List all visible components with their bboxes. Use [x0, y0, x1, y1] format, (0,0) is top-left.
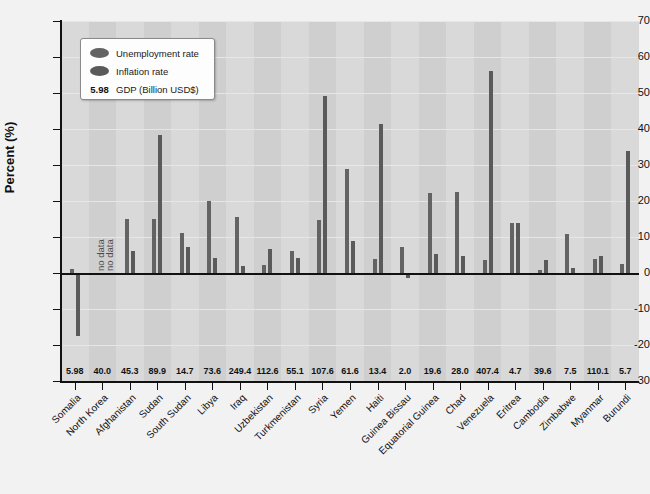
y-tick-mark [53, 201, 61, 202]
y-axis-label: Percent (%) [2, 122, 17, 194]
gdp-value: 14.7 [176, 366, 194, 376]
legend-item-unemployment: Unemployment rate [90, 45, 199, 61]
bar-unemployment-rate [483, 260, 487, 273]
bar-inflation-rate [76, 273, 80, 336]
bar-inflation-rate [516, 223, 520, 273]
bar-inflation-rate [131, 251, 135, 273]
bar-unemployment-rate [180, 233, 184, 273]
y-tick-mark [53, 21, 61, 22]
bar-inflation-rate [186, 247, 190, 273]
gridline [61, 309, 639, 310]
gdp-value: 7.5 [564, 366, 577, 376]
x-axis-label: Syria [306, 392, 330, 416]
gdp-value: 61.6 [341, 366, 359, 376]
y-tick-label: 10 [598, 230, 650, 242]
gdp-value: 55.1 [286, 366, 304, 376]
zero-line [61, 273, 639, 275]
category-label: Haiti [363, 392, 385, 414]
gdp-value: 4.7 [509, 366, 522, 376]
bar-unemployment-rate [235, 217, 239, 273]
no-data-annotation: no data [104, 225, 115, 271]
category-label: Syria [306, 392, 330, 416]
unemployment-swatch-icon [90, 48, 109, 58]
legend-gdp-sample-value: 5.98 [90, 84, 109, 95]
x-tick-mark [378, 383, 379, 390]
y-tick-mark [53, 273, 61, 274]
y-tick-label: 40 [598, 122, 650, 134]
gridline [61, 21, 639, 22]
y-tick-label: 60 [598, 50, 650, 62]
bar-unemployment-rate [207, 201, 211, 273]
bar-inflation-rate [213, 258, 217, 273]
gridline [61, 201, 639, 202]
gridline [61, 165, 639, 166]
gdp-value: 73.6 [204, 366, 222, 376]
y-tick-mark [53, 309, 61, 310]
legend-label-inflation: Inflation rate [116, 66, 168, 77]
bar-unemployment-rate [510, 223, 514, 273]
legend-label-unemployment: Unemployment rate [116, 48, 199, 59]
x-tick-mark [625, 383, 626, 390]
bar-inflation-rate [489, 71, 493, 273]
x-tick-mark [515, 383, 516, 390]
x-tick-mark [570, 383, 571, 390]
x-axis-label: Libya [195, 392, 220, 417]
bar-unemployment-rate [428, 193, 432, 273]
bar-unemployment-rate [290, 251, 294, 273]
y-tick-label: 0 [598, 266, 650, 278]
x-axis-label: Haiti [363, 392, 385, 414]
category-label: Iraq [228, 392, 248, 412]
bar-inflation-rate [379, 124, 383, 273]
y-tick-mark [53, 381, 61, 382]
gdp-value: 45.3 [121, 366, 139, 376]
legend-item-gdp: 5.98 GDP (Billion USD$) [90, 81, 199, 97]
bar-chart: Percent (%) no datano data 7060504030201… [0, 0, 650, 494]
y-tick-label: -10 [598, 302, 650, 314]
gdp-value: 40.0 [94, 366, 112, 376]
x-axis-label: Iraq [228, 392, 248, 412]
gdp-value: 2.0 [399, 366, 412, 376]
bar-unemployment-rate [373, 259, 377, 273]
gdp-value: 39.6 [534, 366, 552, 376]
x-tick-mark [102, 383, 103, 390]
bar-unemployment-rate [593, 259, 597, 273]
y-tick-mark [53, 237, 61, 238]
gdp-value: 28.0 [451, 366, 469, 376]
legend-item-inflation: Inflation rate [90, 63, 168, 79]
x-tick-mark [405, 383, 406, 390]
bar-unemployment-rate [565, 234, 569, 273]
category-label: Chad [443, 392, 468, 417]
y-tick-mark [53, 165, 61, 166]
x-tick-mark [433, 383, 434, 390]
gdp-value: 13.4 [369, 366, 387, 376]
x-tick-mark [460, 383, 461, 390]
y-tick-mark [53, 93, 61, 94]
bar-unemployment-rate [345, 169, 349, 273]
bar-inflation-rate [158, 135, 162, 273]
x-tick-mark [488, 383, 489, 390]
gdp-values-row: 5.9840.045.389.914.773.6249.4112.655.110… [61, 366, 639, 381]
chart-legend: Unemployment rate Inflation rate 5.98 GD… [80, 38, 215, 100]
y-tick-mark [53, 57, 61, 58]
bar-unemployment-rate [400, 247, 404, 273]
gridline [61, 129, 639, 130]
bar-inflation-rate [241, 266, 245, 273]
y-tick-label: 70 [598, 14, 650, 26]
x-tick-mark [295, 383, 296, 390]
x-tick-mark [350, 383, 351, 390]
category-label: Libya [195, 392, 220, 417]
x-axis-label: Chad [443, 392, 468, 417]
x-tick-mark [267, 383, 268, 390]
bar-unemployment-rate [262, 265, 266, 273]
y-tick-label: 50 [598, 86, 650, 98]
bar-inflation-rate [544, 260, 548, 273]
bar-unemployment-rate [455, 192, 459, 273]
x-tick-mark [240, 383, 241, 390]
x-tick-mark [322, 383, 323, 390]
bar-inflation-rate [268, 249, 272, 273]
bar-inflation-rate [323, 96, 327, 273]
gdp-value: 5.98 [66, 366, 84, 376]
category-label: Burundi [601, 392, 633, 424]
inflation-swatch-icon [90, 66, 109, 76]
gdp-value: 19.6 [424, 366, 442, 376]
